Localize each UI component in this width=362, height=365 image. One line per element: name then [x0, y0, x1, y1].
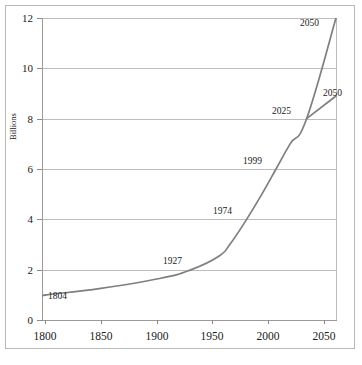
annotation-2050-low: 2050	[323, 88, 342, 98]
x-axis-line	[42, 320, 337, 321]
y-axis-line	[42, 18, 43, 321]
x-tick-mark-1850	[101, 320, 102, 324]
x-tick-mark-1900	[157, 320, 158, 324]
annotation-2025: 2025	[272, 106, 291, 116]
gridline-2	[42, 270, 337, 271]
x-tick-label-2000: 2000	[238, 330, 298, 342]
x-tick-label-2050: 2050	[294, 330, 354, 342]
plot-border-right	[336, 18, 337, 321]
annotation-2050-high: 2050	[300, 18, 319, 28]
y-tick-label-2: 2	[5, 265, 33, 276]
gridline-8	[42, 119, 337, 120]
x-tick-mark-2050	[324, 320, 325, 324]
y-tick-label-6: 6	[5, 164, 33, 175]
gridline-6	[42, 169, 337, 170]
gridline-4	[42, 219, 337, 220]
x-tick-label-1950: 1950	[182, 330, 242, 342]
x-tick-label-1900: 1900	[127, 330, 187, 342]
y-tick-label-4: 4	[5, 214, 33, 225]
y-tick-label-0: 0	[5, 315, 33, 326]
x-tick-mark-2000	[268, 320, 269, 324]
x-tick-label-1800: 1800	[15, 330, 75, 342]
x-tick-mark-1950	[212, 320, 213, 324]
y-tick-label-10: 10	[5, 63, 33, 74]
annotation-1927: 1927	[163, 256, 182, 266]
x-tick-mark-1800	[45, 320, 46, 324]
population-chart: 12 10 8 6 4 2 0 1800 1850 1900 1950 2000…	[0, 0, 362, 365]
annotation-1974: 1974	[213, 206, 232, 216]
plot-border-top	[42, 18, 337, 19]
y-tick-label-12: 12	[5, 13, 33, 24]
gridline-10	[42, 68, 337, 69]
x-tick-label-1850: 1850	[71, 330, 131, 342]
y-axis-title: Billions	[9, 113, 18, 140]
annotation-1804: 1804	[48, 291, 67, 301]
annotation-1999: 1999	[243, 156, 262, 166]
